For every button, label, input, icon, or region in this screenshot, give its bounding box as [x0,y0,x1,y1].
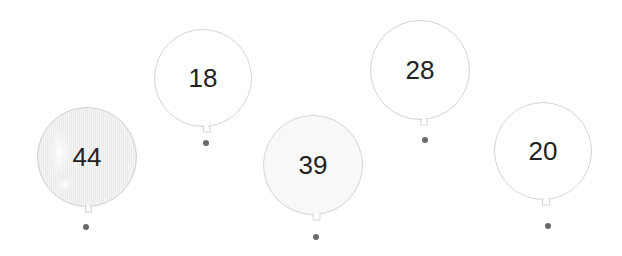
string-dot [313,234,319,240]
balloon-knot-icon [540,198,552,206]
balloon-number: 18 [189,63,218,94]
balloon-body[interactable]: 20 [494,102,592,200]
balloon-body[interactable]: 28 [370,20,470,120]
balloon-number: 28 [406,55,435,86]
string-dot [422,137,428,143]
balloon-number: 39 [299,150,328,181]
balloon-body[interactable]: 39 [263,115,363,215]
balloon-knot-icon [82,205,94,213]
balloon-knot-icon [310,213,322,221]
balloon-knot-icon [418,118,430,126]
balloon-number: 20 [529,136,558,167]
balloon-body[interactable]: 18 [154,29,252,127]
string-dot [203,140,209,146]
balloon-number: 44 [73,142,102,173]
balloon-body[interactable]: 44 [37,107,137,207]
balloon-knot-icon [201,125,213,133]
string-dot [83,224,89,230]
string-dot [545,223,551,229]
